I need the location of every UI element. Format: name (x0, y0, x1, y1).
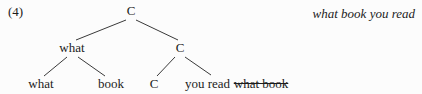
tree-node-root-c: C (127, 4, 136, 18)
tree-leaf-complement: you readwhat book (185, 77, 288, 91)
tree-leaf-book: book (98, 77, 124, 91)
edge-root-to-cbar (136, 20, 178, 40)
gloss-text: what book you read (313, 6, 415, 22)
tree-node-cbar: C (176, 41, 185, 55)
tree-node-spec-what: what (59, 41, 84, 55)
syntax-tree-figure: (4) C what C what book C you readwhat bo… (0, 0, 422, 94)
tree-leaf-what: what (28, 77, 53, 91)
edge-cbar-to-complement (185, 57, 211, 75)
edge-spec-to-book (78, 57, 105, 76)
complement-text: you read (185, 76, 230, 91)
complement-struck-text: what book (234, 76, 289, 91)
edge-spec-to-what (44, 57, 67, 76)
edge-root-to-spec (76, 20, 126, 40)
edge-cbar-to-head (157, 57, 175, 76)
tree-leaf-c-head: C (150, 77, 159, 91)
